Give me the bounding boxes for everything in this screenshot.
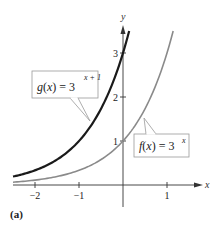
label-pointer xyxy=(70,98,90,121)
x-axis-label: x xyxy=(204,179,210,190)
panel-label: (a) xyxy=(10,208,23,220)
label-text: f(x) = 3 xyxy=(139,139,174,153)
exponential-graph: xy−2−11123 g(x) = 3x + 1f(x) = 3x xyxy=(0,0,214,231)
y-tick-label: 3 xyxy=(113,48,118,59)
x-tick-label: −2 xyxy=(30,190,41,201)
y-tick-label: 2 xyxy=(113,92,118,103)
label-text: g(x) = 3 xyxy=(37,80,75,94)
curves xyxy=(13,31,173,182)
label-exponent: x xyxy=(181,136,186,145)
x-axis-arrow-icon xyxy=(194,183,203,188)
x-tick-label: −1 xyxy=(74,190,85,201)
y-tick-label: 1 xyxy=(113,136,118,147)
f-curve xyxy=(13,31,173,182)
g-label: g(x) = 3x + 1 xyxy=(32,71,101,121)
function-labels: g(x) = 3x + 1f(x) = 3x xyxy=(32,71,189,157)
label-pointer xyxy=(144,118,156,134)
y-axis-arrow-icon xyxy=(121,25,126,34)
f-label: f(x) = 3x xyxy=(134,118,189,157)
y-axis-label: y xyxy=(120,11,126,22)
axes: xy−2−11123 xyxy=(13,11,210,207)
g-curve xyxy=(13,31,129,176)
label-exponent: x + 1 xyxy=(83,73,101,82)
x-tick-label: 1 xyxy=(165,190,170,201)
